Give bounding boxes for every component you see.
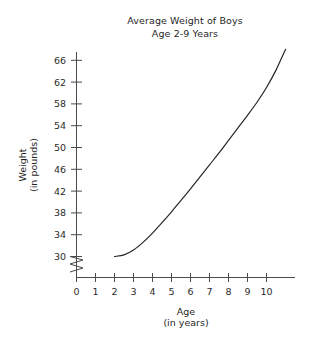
x-tick-label: 10 [260,286,272,297]
x-tick-label: 1 [92,286,98,297]
x-tick-label: 7 [206,286,212,297]
y-axis-title-text: Weight [17,148,28,181]
x-axis-tick-labels: 0 1 2 3 4 5 6 7 8 9 10 [73,286,272,297]
x-axis-units-text: (in years) [163,317,208,328]
x-tick-label: 8 [225,286,231,297]
y-tick-label: 62 [54,77,66,88]
x-tick-label: 2 [111,286,117,297]
y-axis-tick-labels: 30 34 38 42 46 50 54 58 62 66 70 [54,51,66,262]
chart-canvas: 30 34 38 42 46 50 54 58 62 66 70 [0,0,317,343]
x-tick-label: 5 [168,286,174,297]
y-tick-label: 58 [54,98,66,109]
y-axis-title: Weight (in pounds) [17,138,39,192]
x-axis-title-text: Age [177,306,196,317]
x-tick-label: 6 [187,286,193,297]
y-tick-label: 54 [54,120,66,131]
x-axis-title: Age (in years) [163,306,208,328]
chart-figure: Average Weight of Boys Age 2-9 Years [0,0,317,343]
y-tick-label: 30 [54,251,66,262]
y-tick-label: 46 [54,164,66,175]
y-tick-label: 42 [54,186,66,197]
x-tick-label: 3 [130,286,136,297]
y-tick-label: 34 [54,229,66,240]
data-series-line [115,49,286,256]
x-tick-label: 4 [149,286,155,297]
y-tick-label: 50 [54,142,66,153]
y-tick-label: 38 [54,207,66,218]
x-tick-label: 0 [73,286,79,297]
y-axis-units-text: (in pounds) [28,138,39,192]
x-tick-label: 9 [244,286,250,297]
